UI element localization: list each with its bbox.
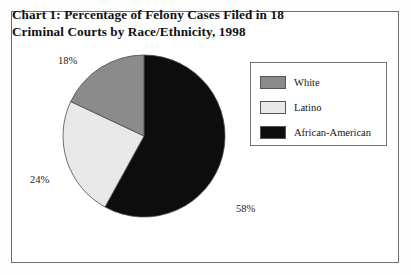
legend-label-white: White: [294, 76, 320, 89]
pie-svg: [53, 44, 235, 236]
legend-swatch-african-american: [260, 126, 286, 139]
legend-label-latino: Latino: [294, 101, 321, 114]
legend-swatch-latino: [260, 101, 286, 114]
pie-label-latino: 24%: [30, 174, 49, 185]
pie-chart: [53, 44, 235, 236]
chart-title-line-2: Criminal Courts by Race/Ethnicity, 1998: [12, 24, 352, 41]
chart-legend: White Latino African-American: [250, 62, 387, 146]
legend-item-african-american: African-American: [260, 125, 371, 139]
pie-label-white: 18%: [58, 55, 77, 66]
chart-title: Chart 1: Percentage of Felony Cases File…: [12, 7, 352, 40]
legend-item-white: White: [260, 75, 320, 89]
legend-label-african-american: African-American: [294, 126, 371, 139]
legend-item-latino: Latino: [260, 100, 321, 114]
pie-label-african-american: 58%: [236, 203, 255, 214]
chart-title-line-1: Chart 1: Percentage of Felony Cases File…: [12, 7, 352, 24]
legend-swatch-white: [260, 76, 286, 89]
chart-figure: Chart 1: Percentage of Felony Cases File…: [0, 0, 411, 275]
pie-slice-group: [63, 55, 225, 217]
